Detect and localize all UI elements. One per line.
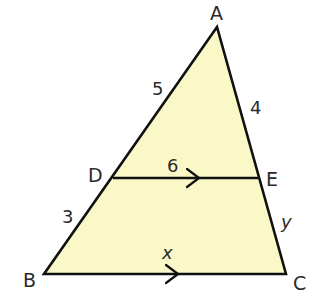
- segment-label-db: 3: [62, 206, 73, 227]
- segment-label-bc: x: [161, 242, 173, 263]
- vertex-label-a: A: [210, 2, 223, 24]
- vertex-label-e: E: [266, 168, 278, 190]
- segment-label-ec: y: [280, 211, 292, 232]
- segment-label-ae: 4: [250, 97, 261, 118]
- vertex-label-c: C: [293, 272, 306, 294]
- similar-triangles-diagram: A D E B C 5 4 6 3 y x: [0, 0, 328, 304]
- triangle-abc: [44, 27, 286, 274]
- segment-label-de: 6: [167, 155, 178, 176]
- segment-label-ad: 5: [152, 78, 163, 99]
- vertex-label-b: B: [23, 269, 36, 291]
- vertex-label-d: D: [88, 164, 103, 186]
